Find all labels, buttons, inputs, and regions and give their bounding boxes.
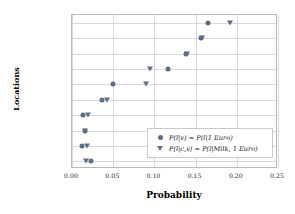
- data-point-circle: [111, 82, 116, 87]
- legend-item-label: P(l|c,v) = P(l|Milk, 1 Euro): [169, 145, 258, 153]
- legend-item: P(l|c,v) = P(l|Milk, 1 Euro): [151, 143, 268, 154]
- data-point-triangle: [85, 113, 91, 118]
- y-gridline: [72, 23, 276, 24]
- y-gridline: [72, 115, 276, 116]
- data-point-triangle: [199, 36, 205, 41]
- data-point-triangle: [184, 51, 190, 56]
- data-point-triangle: [227, 20, 233, 25]
- data-point-circle: [80, 113, 85, 118]
- data-point-circle: [205, 20, 210, 25]
- data-point-triangle: [83, 159, 89, 164]
- x-axis-tick-label: 0.20: [229, 172, 243, 179]
- y-gridline: [72, 69, 276, 70]
- data-point-triangle: [104, 97, 110, 102]
- x-gridline: [278, 15, 279, 167]
- y-gridline: [72, 84, 276, 85]
- y-gridline: [72, 161, 276, 162]
- legend-item: P(l|v) = P(l|1 Euro): [151, 132, 268, 143]
- data-point-triangle: [143, 82, 149, 87]
- data-point-triangle: [147, 66, 153, 71]
- x-axis-tick-label: 0.00: [64, 172, 78, 179]
- triangle-marker-icon: [151, 146, 169, 151]
- data-point-circle: [166, 66, 171, 71]
- x-axis-tick-label: 0.15: [188, 172, 202, 179]
- x-axis-title: Probability: [71, 190, 277, 200]
- scatter-chart-figure: FranceGermanyItalySpainChinaNetherlandsV…: [0, 0, 295, 214]
- x-axis-tick-label: 0.05: [105, 172, 119, 179]
- x-axis-tick-label: 0.25: [270, 172, 284, 179]
- y-gridline: [72, 54, 276, 55]
- y-axis-title: Locations: [11, 49, 21, 129]
- y-gridline: [72, 38, 276, 39]
- data-point-circle: [88, 159, 93, 164]
- legend-item-label: P(l|v) = P(l|1 Euro): [169, 134, 233, 142]
- chart-legend: P(l|v) = P(l|1 Euro) P(l|c,v) = P(l|Milk…: [147, 128, 273, 158]
- data-point-triangle: [82, 128, 88, 133]
- data-point-triangle: [84, 143, 90, 148]
- x-axis-tick-label: 0.10: [147, 172, 161, 179]
- circle-marker-icon: [151, 135, 169, 140]
